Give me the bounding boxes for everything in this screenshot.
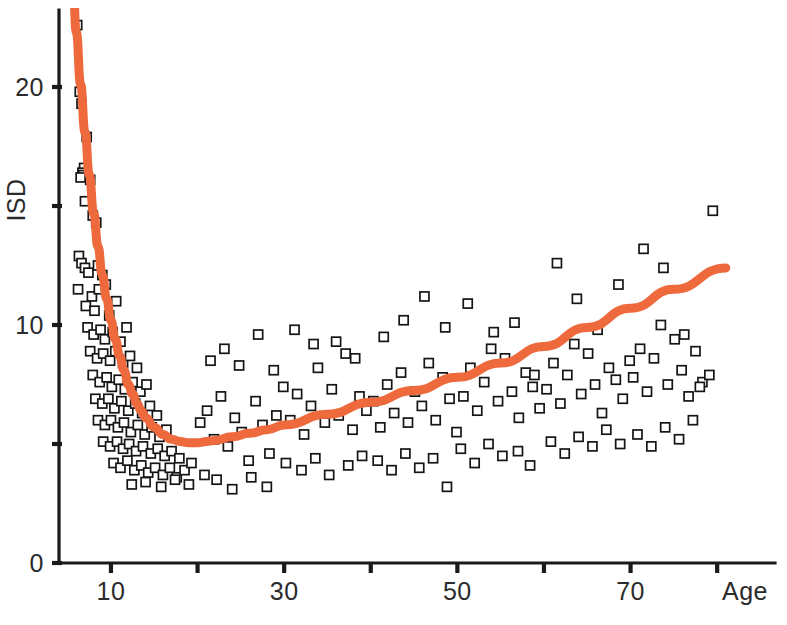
data-point [200,470,209,479]
data-point [293,390,302,399]
data-point [300,430,309,439]
data-point [647,442,656,451]
data-point [691,347,700,356]
data-point [235,361,244,370]
x-axis-title: Age [722,577,768,605]
data-point [484,440,493,449]
data-point [157,482,166,491]
data-point [376,423,385,432]
data-point [445,394,454,403]
data-point [401,449,410,458]
data-point [141,478,150,487]
data-point [119,418,128,427]
data-point [591,380,600,389]
data-point [230,413,239,422]
data-point [574,432,583,441]
data-point [244,456,253,465]
data-point [290,325,299,334]
x-tick-label-70: 70 [616,577,645,605]
data-point [442,482,451,491]
data-point [514,413,523,422]
data-point [362,406,371,415]
data-point [220,344,229,353]
data-point [228,485,237,494]
data-point [656,321,665,330]
data-point [473,406,482,415]
data-point [577,390,586,399]
x-tick-label-10: 10 [97,577,126,605]
data-point [563,370,572,379]
data-point [611,375,620,384]
data-point [184,480,193,489]
data-point [643,387,652,396]
data-point [206,356,215,365]
data-point [123,456,132,465]
data-point [325,470,334,479]
data-point [84,268,93,277]
data-point [251,397,260,406]
data-point [535,404,544,413]
data-point [265,449,274,458]
data-point [570,340,579,349]
data-point [142,380,151,389]
data-point [132,363,141,372]
data-point [223,442,232,451]
data-point [431,416,440,425]
data-point [639,244,648,253]
data-point [616,440,625,449]
data-point [247,473,256,482]
data-point [417,401,426,410]
data-point [415,463,424,472]
data-point [663,380,672,389]
data-point [203,406,212,415]
data-point [272,411,281,420]
data-point [636,344,645,353]
data-point [542,385,551,394]
data-point [677,366,686,375]
data-point [625,356,634,365]
data-point [404,418,413,427]
y-tick-label-10: 10 [15,311,44,339]
data-point [74,285,83,294]
data-point [104,394,113,403]
data-point [373,456,382,465]
scatter-plot-svg: 01020 10305070 ISD Age [0,0,787,625]
data-point [510,318,519,327]
data-point [456,444,465,453]
data-point [145,401,154,410]
data-point [152,411,161,420]
data-point [560,449,569,458]
data-point [187,459,196,468]
data-point [459,392,468,401]
data-point [480,378,489,387]
data-point [379,332,388,341]
data-point [614,280,623,289]
data-point [327,385,336,394]
data-point [96,325,105,334]
data-point [212,475,221,484]
data-point [680,330,689,339]
data-point [441,323,450,332]
data-point [344,461,353,470]
data-point [420,292,429,301]
x-tick-label-30: 30 [270,577,299,605]
data-point [122,323,131,332]
data-point [513,447,522,456]
data-point [127,480,136,489]
data-point [695,382,704,391]
data-point [629,373,638,382]
data-point [424,359,433,368]
data-point [463,299,472,308]
y-axis-title: ISD [2,178,30,221]
data-point [705,370,714,379]
data-point [216,392,225,401]
data-point [597,409,606,418]
data-point [81,301,90,310]
x-tick-label-50: 50 [443,577,472,605]
data-point [470,459,479,468]
data-point [604,363,613,372]
data-point [117,397,126,406]
data-point [670,335,679,344]
data-point [383,380,392,389]
data-point [684,392,693,401]
